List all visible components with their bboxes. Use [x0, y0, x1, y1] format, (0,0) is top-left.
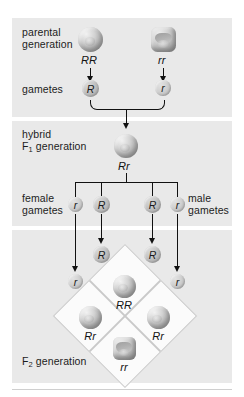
- f1-drop-3: [152, 182, 153, 197]
- parent-seed-wrinkled-rr: [151, 27, 176, 52]
- punnett-genotype-right: Rr: [152, 330, 164, 342]
- punnett-seed-round-RR: [113, 275, 136, 298]
- label-hybrid-line2: F1 generation: [22, 140, 86, 157]
- f1-drop-1: [75, 182, 76, 197]
- label-male-gametes-line1: male: [188, 192, 211, 205]
- label-parental-generation-line1: parental: [22, 26, 61, 39]
- f1-gamete-male-r: r: [170, 197, 185, 212]
- label-hybrid-line1: hybrid: [22, 128, 51, 141]
- arrow-head-hybrid: [123, 123, 129, 129]
- punnett-cell-right: Rr: [138, 306, 178, 342]
- punnett-genotype-left: Rr: [84, 330, 96, 342]
- punnett-seed-round-Rr-left: [79, 306, 102, 329]
- f1-drop-4: [177, 182, 178, 197]
- punnett-genotype-top: RR: [116, 299, 132, 311]
- punnett-cell-bottom: rr: [104, 337, 144, 373]
- bottom-divider: [12, 389, 232, 390]
- hybrid-seed-round-Rr: [114, 134, 138, 158]
- brace-gamete-fusion: [90, 100, 165, 110]
- arrow-line-inner-right: [152, 214, 153, 240]
- punnett-genotype-bottom: rr: [120, 361, 127, 373]
- f1-gamete-female-R: R: [93, 196, 110, 213]
- arrow-line-inner-left: [101, 214, 102, 240]
- parent-genotype-left: RR: [81, 54, 97, 66]
- genetics-diagram: parental generation RR rr gametes R r hy…: [0, 0, 244, 397]
- parent-seed-round-RR: [78, 27, 103, 52]
- gamete-token-R: R: [82, 80, 99, 97]
- label-female-gametes-line2: gametes: [22, 204, 63, 217]
- label-gametes: gametes: [22, 83, 63, 96]
- parent-genotype-right: rr: [158, 54, 165, 66]
- f1-gamete-male-R: R: [144, 196, 161, 213]
- f1-drop-2: [101, 182, 102, 197]
- label-hybrid-generation: generation: [33, 140, 87, 152]
- label-f2-generation-text: generation: [33, 355, 87, 367]
- f1-distribution-bar: [75, 182, 178, 183]
- arrow-head-inner-left: [98, 238, 104, 244]
- label-f2-generation: F2 generation: [22, 355, 86, 372]
- gamete-token-r: r: [155, 80, 171, 96]
- f1-gamete-female-r: r: [68, 197, 83, 212]
- hybrid-genotype: Rr: [118, 160, 130, 172]
- label-parental-generation-line2: generation: [22, 38, 73, 51]
- label-male-gametes-line2: gametes: [188, 204, 229, 217]
- label-female-gametes-line1: female: [22, 192, 54, 205]
- punnett-seed-wrinkled-rr: [113, 337, 136, 360]
- arrow-head-inner-right: [149, 238, 155, 244]
- punnett-seed-round-Rr-right: [147, 306, 170, 329]
